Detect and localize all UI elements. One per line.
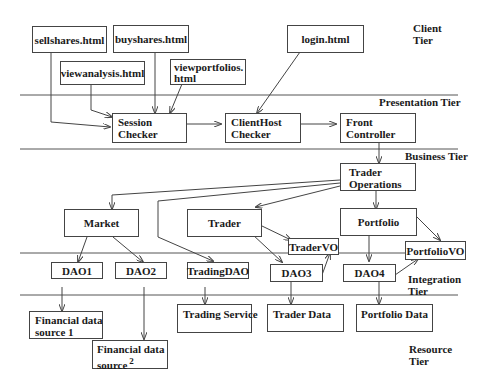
node-label: Portfolio Data: [361, 308, 428, 320]
tier-label-line: Tier: [413, 34, 442, 46]
node-trader: Trader: [187, 209, 262, 237]
node-dao1: DAO1: [51, 262, 103, 279]
node-label-line: Financial data: [35, 314, 97, 326]
node-label: Trading Service: [183, 308, 258, 320]
node-viewportfolios: viewportfolios. html: [170, 59, 246, 85]
node-label-line: source2: [97, 355, 163, 371]
node-trading-dao: TradingDAO: [187, 262, 249, 279]
node-label-text: source: [97, 359, 127, 371]
node-label: buyshares.html: [115, 33, 187, 45]
node-clienthost-checker: ClientHost Checker: [225, 113, 301, 143]
node-trading-service: Trading Service: [177, 304, 252, 333]
tier-label-integration: Integration Tier: [408, 273, 461, 297]
node-label-line: Checker: [231, 128, 295, 140]
node-label-line: Controller: [346, 128, 410, 140]
node-buyshares: buyshares.html: [113, 25, 189, 53]
tier-label-presentation: Presentation Tier: [379, 96, 461, 108]
tier-label-client: Client Tier: [413, 22, 442, 46]
node-trader-operations: Trader Operations: [340, 163, 416, 191]
node-session-checker: Session Checker: [112, 113, 187, 143]
node-portfolio: Portfolio: [340, 208, 417, 236]
superscript: 2: [129, 356, 134, 366]
tier-label-line: Tier: [409, 355, 452, 367]
node-trader-data: Trader Data: [267, 304, 344, 332]
node-label: DAO1: [62, 265, 92, 277]
node-label: PortfolioVO: [407, 245, 465, 257]
node-label-line: Session: [118, 116, 181, 128]
node-label-line: Front: [346, 116, 410, 128]
node-label: Trader Data: [273, 308, 331, 320]
node-login: login.html: [287, 25, 364, 53]
node-label-line: source 1: [35, 326, 97, 338]
node-label-line: ClientHost: [231, 116, 295, 128]
node-dao2: DAO2: [115, 262, 167, 279]
node-label: TraderVO: [289, 241, 338, 253]
node-financial-data-source-2: Financial data source2: [92, 340, 168, 369]
node-trader-vo: TraderVO: [288, 238, 339, 255]
tier-label-business: Business Tier: [405, 150, 468, 162]
tier-label-line: Integration: [408, 273, 461, 285]
node-label-line: Trader: [349, 166, 407, 178]
node-label: Portfolio: [358, 216, 400, 228]
node-dao3: DAO3: [270, 264, 323, 282]
node-label-line: html: [174, 73, 242, 84]
tier-label-line: Resource: [409, 343, 452, 355]
node-financial-data-source-1: Financial data source 1: [29, 311, 103, 339]
node-portfolio-vo: PortfolioVO: [405, 241, 466, 260]
node-front-controller: Front Controller: [340, 113, 416, 143]
node-portfolio-data: Portfolio Data: [356, 304, 433, 332]
node-label-line: Checker: [118, 128, 181, 140]
node-viewanalysis: viewanalysis.html: [60, 61, 145, 85]
node-label: TradingDAO: [187, 265, 249, 277]
node-label-line: Operations: [349, 178, 407, 190]
node-label: viewanalysis.html: [61, 67, 144, 79]
node-market: Market: [64, 209, 139, 237]
node-label: DAO4: [355, 267, 385, 279]
tier-label-resource: Resource Tier: [409, 343, 452, 367]
node-label-line: Financial data: [97, 343, 163, 355]
node-label: DAO3: [282, 267, 312, 279]
node-label: DAO2: [126, 265, 156, 277]
node-label: Trader: [208, 217, 241, 229]
node-dao4: DAO4: [343, 264, 396, 282]
node-label: Market: [84, 217, 119, 229]
node-label: sellshares.html: [35, 34, 105, 46]
tier-label-line: Client: [413, 22, 442, 34]
tier-label-line: Tier: [408, 285, 461, 297]
node-label: login.html: [302, 33, 350, 45]
node-sellshares: sellshares.html: [32, 26, 107, 53]
